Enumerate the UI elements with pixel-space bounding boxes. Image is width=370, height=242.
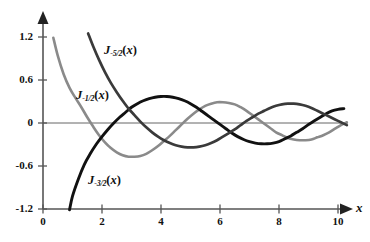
y-tick-label-neg1.2: -1.2: [0, 203, 33, 214]
curve-label-j-5-2-arg: (x): [122, 43, 137, 57]
curve-label-j-1-2: J-1/2(x): [76, 89, 109, 103]
curve-j-3-2-x-: [70, 96, 344, 209]
curve-label-j-5-2-sub: -5/2: [110, 49, 122, 58]
x-tick-label-6: 6: [206, 216, 234, 227]
curve-label-j-3-2-sub: -3/2: [94, 179, 106, 188]
curve-label-j-5-2: J-5/2(x): [104, 44, 137, 58]
y-tick-label-0.6: 0.6: [0, 74, 33, 85]
x-tick-label-0: 0: [29, 216, 57, 227]
curve-label-j-1-2-arg: (x): [94, 88, 109, 102]
x-tick-label-4: 4: [147, 216, 175, 227]
x-tick-label-8: 8: [265, 216, 293, 227]
curve-label-j-3-2: J-3/2(x): [88, 174, 121, 188]
curve-label-j-3-2-arg: (x): [106, 173, 121, 187]
curve-label-j-1-2-sub: -1/2: [82, 94, 94, 103]
x-axis-label: x: [356, 201, 363, 214]
x-tick-label-2: 2: [88, 216, 116, 227]
x-tick-label-10: 10: [324, 216, 352, 227]
y-axis-arrow-icon: [38, 11, 49, 24]
y-tick-label-1.2: 1.2: [0, 31, 33, 42]
chart-figure: 1.2 0.6 0 -0.6 -1.2 0 2 4 6 8 10 x J-5/2…: [0, 0, 370, 242]
y-tick-label-neg0.6: -0.6: [0, 160, 33, 171]
bessel-functions-plot: [0, 0, 370, 242]
y-tick-label-0: 0: [0, 117, 33, 128]
x-axis-arrow-icon: [340, 204, 353, 215]
